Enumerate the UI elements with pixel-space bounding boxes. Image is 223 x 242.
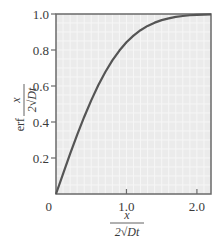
y-label-prefix: erf <box>13 118 27 131</box>
x-tick-labels: 1.02.0 <box>118 199 205 214</box>
erf-chart: 0.20.40.60.81.0 1.02.0 0 x 2√Dt erf x 2√… <box>0 0 223 242</box>
y-tick-labels: 0.20.40.60.81.0 <box>33 7 50 166</box>
x-tick-label: 2.0 <box>189 199 205 214</box>
y-tick-label: 0.8 <box>33 43 49 58</box>
y-tick-label: 0.2 <box>33 151 49 166</box>
y-label-denominator: 2√Dt <box>25 87 39 112</box>
origin-label: 0 <box>46 199 53 214</box>
x-label-denominator: 2√Dt <box>115 225 140 239</box>
y-tick-label: 1.0 <box>33 7 49 22</box>
y-tick-label: 0.4 <box>33 115 50 130</box>
x-axis-label: x 2√Dt <box>110 208 144 239</box>
y-label-numerator: x <box>9 97 23 104</box>
grid-lines <box>56 14 211 194</box>
x-label-numerator: x <box>123 208 130 222</box>
